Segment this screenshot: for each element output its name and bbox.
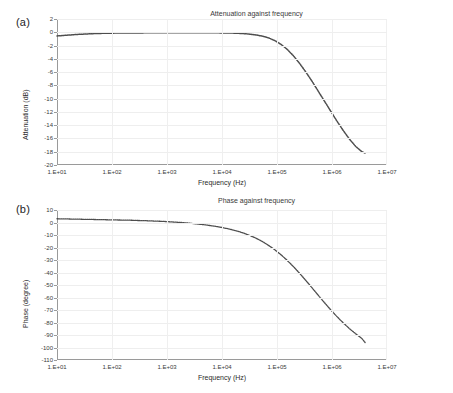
data-series-line xyxy=(57,219,365,343)
x-tick-label: 1.E+07 xyxy=(377,364,396,370)
y-tick-mark xyxy=(54,260,57,261)
data-series-line xyxy=(57,33,365,153)
y-tick-label: 2 xyxy=(50,16,53,22)
y-tick-mark xyxy=(54,298,57,299)
panel-phase: (b) Phase against frequency Phase (degre… xyxy=(0,196,453,393)
y-axis-label-attenuation: Attenuation (dB) xyxy=(22,89,29,140)
gridline-vertical xyxy=(112,210,113,360)
y-tick-mark xyxy=(54,210,57,211)
gridline-vertical xyxy=(167,210,168,360)
y-tick-label: -20 xyxy=(44,245,53,251)
y-tick-label: -60 xyxy=(44,295,53,301)
panel-attenuation: (a) Attenuation against frequency Attenu… xyxy=(0,0,453,196)
y-tick-label: -6 xyxy=(48,69,53,75)
y-tick-mark xyxy=(54,273,57,274)
x-tick-label: 1.E+04 xyxy=(212,364,231,370)
gridline-vertical xyxy=(277,19,278,165)
plot-area-attenuation: Frequency (Hz) 20-2-4-6-8-10-12-14-16-18… xyxy=(57,19,387,165)
y-tick-mark xyxy=(54,125,57,126)
y-tick-mark xyxy=(54,152,57,153)
y-tick-label: 0 xyxy=(50,220,53,226)
gridline-vertical xyxy=(277,210,278,360)
x-tick-label: 1.E+02 xyxy=(102,364,121,370)
y-tick-label: -20 xyxy=(44,162,53,168)
y-tick-label: -10 xyxy=(44,232,53,238)
y-tick-mark xyxy=(54,235,57,236)
chart-title-phase: Phase against frequency xyxy=(0,197,453,204)
y-tick-mark xyxy=(54,335,57,336)
y-tick-mark xyxy=(54,72,57,73)
y-tick-label: -90 xyxy=(44,332,53,338)
y-tick-mark xyxy=(54,223,57,224)
panel-tag-a: (a) xyxy=(16,16,30,28)
y-tick-mark xyxy=(54,165,57,166)
x-tick-label: 1.E+06 xyxy=(322,364,341,370)
x-tick-label: 1.E+05 xyxy=(267,169,286,175)
y-axis-label-phase: Phase (degree) xyxy=(22,280,29,328)
y-tick-label: -110 xyxy=(41,357,53,363)
y-tick-label: 0 xyxy=(50,29,53,35)
x-tick-label: 1.E+02 xyxy=(102,169,121,175)
y-tick-label: 10 xyxy=(46,207,53,213)
y-tick-label: -18 xyxy=(44,149,53,155)
y-tick-label: -12 xyxy=(44,109,53,115)
panel-tag-b: (b) xyxy=(16,203,30,215)
gridline-vertical xyxy=(332,210,333,360)
y-tick-mark xyxy=(54,248,57,249)
y-tick-label: -40 xyxy=(44,270,53,276)
y-tick-mark xyxy=(54,32,57,33)
y-tick-mark xyxy=(54,285,57,286)
y-tick-mark xyxy=(54,46,57,47)
gridline-vertical xyxy=(112,19,113,165)
y-tick-label: -8 xyxy=(48,82,53,88)
x-axis-label-phase: Frequency (Hz) xyxy=(57,374,387,381)
gridline-vertical xyxy=(332,19,333,165)
y-tick-label: -70 xyxy=(44,307,53,313)
x-tick-label: 1.E+04 xyxy=(212,169,231,175)
x-tick-label: 1.E+06 xyxy=(322,169,341,175)
y-tick-mark xyxy=(54,348,57,349)
y-tick-label: -2 xyxy=(48,43,53,49)
bode-plot-figure: (a) Attenuation against frequency Attenu… xyxy=(0,0,453,393)
y-tick-mark xyxy=(54,59,57,60)
y-tick-label: -30 xyxy=(44,257,53,263)
x-tick-label: 1.E+07 xyxy=(377,169,396,175)
y-tick-mark xyxy=(54,138,57,139)
gridline-vertical xyxy=(222,19,223,165)
y-tick-mark xyxy=(54,360,57,361)
y-tick-mark xyxy=(54,323,57,324)
gridline-vertical xyxy=(167,19,168,165)
plot-area-phase: Frequency (Hz) 100-10-20-30-40-50-60-70-… xyxy=(57,210,387,360)
y-tick-mark xyxy=(54,112,57,113)
y-tick-label: -80 xyxy=(44,320,53,326)
y-tick-mark xyxy=(54,19,57,20)
y-tick-label: -14 xyxy=(44,122,53,128)
x-tick-label: 1.E+01 xyxy=(47,364,66,370)
y-tick-label: -50 xyxy=(44,282,53,288)
gridline-vertical xyxy=(222,210,223,360)
y-tick-label: -10 xyxy=(44,96,53,102)
x-tick-label: 1.E+05 xyxy=(267,364,286,370)
y-tick-mark xyxy=(54,310,57,311)
y-tick-mark xyxy=(54,99,57,100)
y-tick-label: -100 xyxy=(41,345,53,351)
y-tick-mark xyxy=(54,85,57,86)
x-tick-label: 1.E+01 xyxy=(47,169,66,175)
x-axis-label-attenuation: Frequency (Hz) xyxy=(57,179,387,186)
y-tick-label: -4 xyxy=(48,56,53,62)
x-tick-label: 1.E+03 xyxy=(157,364,176,370)
y-tick-label: -16 xyxy=(44,135,53,141)
chart-title-attenuation: Attenuation against frequency xyxy=(0,10,453,17)
x-tick-label: 1.E+03 xyxy=(157,169,176,175)
